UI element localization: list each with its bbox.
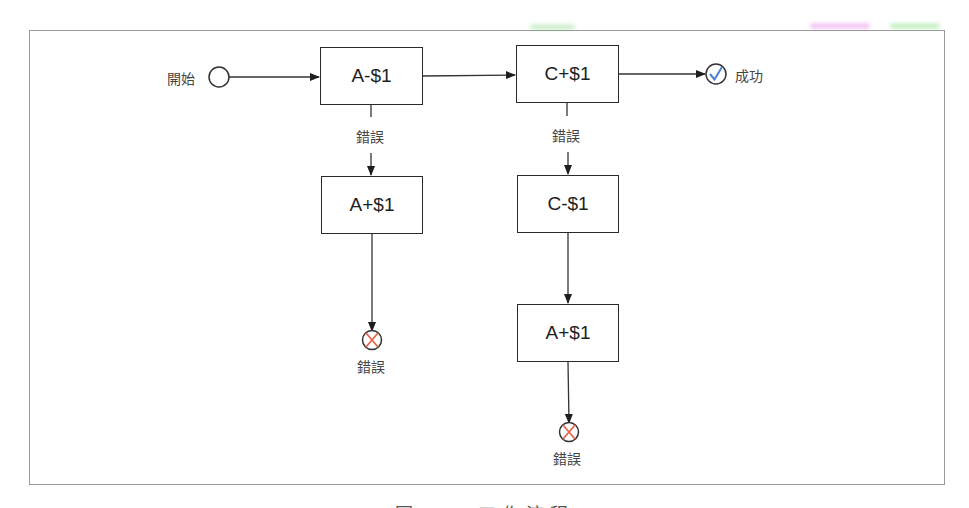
node-a-plus-right: A+$1 <box>517 304 619 362</box>
success-check-icon <box>706 64 726 84</box>
edge-label-c-plus-error: 錯誤 <box>552 125 580 145</box>
error-left-x-icon <box>363 331 382 350</box>
figure-caption: 圖 ... 工作流程 <box>0 500 969 508</box>
figure-caption-clip: 圖 ... 工作流程 <box>0 496 969 508</box>
error-right-label: 錯誤 <box>553 448 581 468</box>
error-left-label: 錯誤 <box>357 356 385 376</box>
success-label: 成功 <box>735 65 763 85</box>
node-a-plus-left: A+$1 <box>321 176 423 234</box>
diagram-connectors <box>0 0 969 508</box>
node-c-plus: C+$1 <box>516 45 619 103</box>
edge-label-a-minus-error: 錯誤 <box>356 126 384 146</box>
start-event-icon <box>209 67 229 87</box>
node-c-minus: C-$1 <box>517 175 619 233</box>
error-right-x-icon <box>560 423 579 442</box>
node-a-minus: A-$1 <box>320 47 423 105</box>
start-label: 開始 <box>167 68 195 88</box>
